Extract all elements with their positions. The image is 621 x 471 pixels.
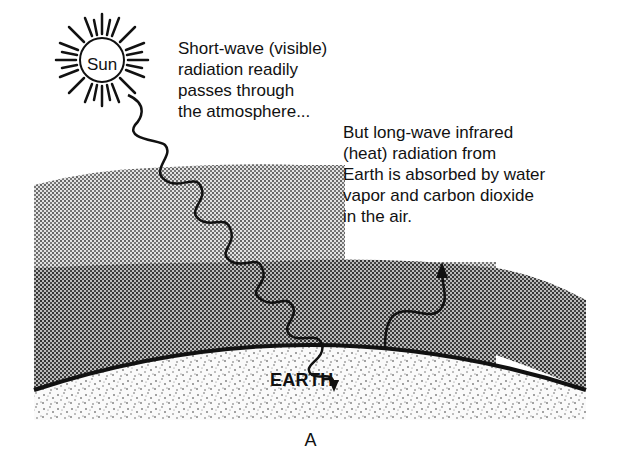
sun-label: Sun [87,55,117,75]
earth-label: EARTH [270,370,334,391]
longwave-line-2: (heat) radiation from [343,143,496,164]
shortwave-line-4: the atmosphere... [178,101,310,122]
longwave-line-4: vapor and carbon dioxide [343,185,534,206]
shortwave-line-1: Short-wave (visible) [178,38,327,59]
longwave-line-5: in the air. [343,206,412,227]
shortwave-line-3: passes through [178,80,294,101]
shortwave-line-2: radiation readily [178,59,298,80]
figure-caption: A [0,430,621,451]
longwave-line-3: Earth is absorbed by water [343,164,545,185]
longwave-line-1: But long-wave infrared [343,122,513,143]
